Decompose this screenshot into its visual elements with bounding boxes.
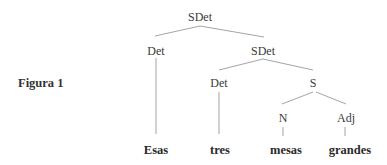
branch-root-det [155, 26, 200, 36]
figure-caption: Figura 1 [18, 76, 63, 91]
node-sdet: SDet [251, 44, 275, 59]
leaf-word: mesas [270, 143, 302, 158]
branch-sdet-s [263, 59, 313, 70]
branch-root-sdet [200, 26, 264, 37]
leaf-word: tres [210, 143, 230, 158]
node-adj: Adj [337, 111, 355, 126]
syntax-tree-figure: Figura 1 SDet Det SDet Det S N Adj Esas … [0, 0, 387, 165]
node-s: S [310, 76, 317, 91]
branch-sdet-det [219, 59, 263, 70]
node-n: N [279, 111, 288, 126]
branch-s-adj [316, 92, 346, 104]
node-root-sdet: SDet [188, 10, 212, 25]
branch-s-n [282, 92, 313, 104]
leaf-word: grandes [329, 143, 371, 158]
leaf-word: Esas [144, 143, 168, 158]
node-det: Det [147, 44, 164, 59]
node-det-2: Det [210, 76, 227, 91]
